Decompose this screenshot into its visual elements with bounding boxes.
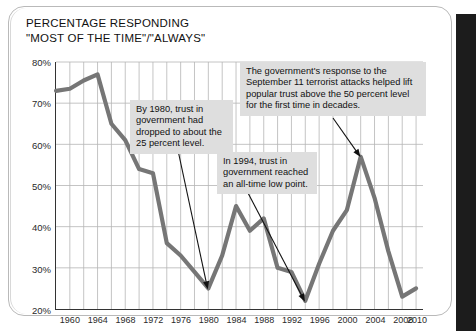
x-tick-label: 1988 bbox=[254, 315, 274, 325]
y-tick-label: 50% bbox=[32, 181, 51, 192]
annotation-callout-in1994: In 1994, trust in government reached an … bbox=[217, 152, 317, 194]
x-tick-label: 1980 bbox=[199, 315, 219, 325]
y-tick-label: 80% bbox=[32, 57, 51, 68]
annotation-callout-by1980: By 1980, trust in government had dropped… bbox=[130, 100, 233, 154]
y-tick-label: 30% bbox=[32, 263, 51, 274]
y-tick-label: 70% bbox=[32, 98, 51, 109]
x-tick-label: 1972 bbox=[143, 315, 163, 325]
x-tick-label: 1960 bbox=[60, 315, 80, 325]
y-tick-label: 20% bbox=[32, 305, 51, 316]
chart-page: PERCENTAGE RESPONDING "MOST OF THE TIME"… bbox=[0, 0, 476, 331]
x-tick-label: 2004 bbox=[365, 315, 385, 325]
annotation-callout-sept11: The government's response to the Septemb… bbox=[240, 62, 426, 116]
x-tick-label: 2000 bbox=[338, 315, 358, 325]
x-tick-label: 1968 bbox=[115, 315, 135, 325]
y-tick-label: 40% bbox=[32, 222, 51, 233]
chart-title: PERCENTAGE RESPONDING "MOST OF THE TIME"… bbox=[26, 16, 326, 45]
x-tick-label: 1992 bbox=[282, 315, 302, 325]
x-tick-label: 1996 bbox=[310, 315, 330, 325]
x-tick-label: 2010 bbox=[407, 315, 427, 325]
y-tick-label: 60% bbox=[32, 139, 51, 150]
x-tick-label: 1976 bbox=[171, 315, 191, 325]
page-gutter-bar bbox=[456, 14, 476, 331]
x-tick-label: 1964 bbox=[88, 315, 108, 325]
x-tick-label: 1984 bbox=[227, 315, 247, 325]
